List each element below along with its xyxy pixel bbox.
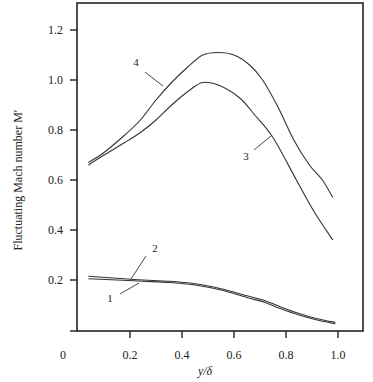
x-axis-title: y/δ — [197, 364, 213, 378]
curve-label-3: 3 — [243, 150, 249, 162]
curve-label-2: 2 — [152, 242, 158, 254]
y-tick-label: 1.0 — [48, 73, 63, 87]
y-tick-label: 0.2 — [48, 273, 63, 287]
y-tick-label: 0.6 — [48, 173, 63, 187]
y-tick-label: 1.2 — [48, 23, 63, 37]
curve-label-1: 1 — [107, 292, 113, 304]
leader-line-1 — [120, 283, 139, 294]
x-tick-label: 1.0 — [331, 348, 346, 362]
line-chart: 0.20.40.60.81.01.2 0.20.40.60.81.0 1234 … — [0, 0, 373, 382]
curve-3 — [88, 82, 332, 240]
x-tick-label: 0.8 — [279, 348, 294, 362]
y-tick-label: 0.8 — [48, 123, 63, 137]
leader-line-4 — [145, 72, 163, 86]
x-axis: 0.20.40.60.81.0 — [70, 331, 346, 362]
origin-label: 0 — [60, 348, 66, 362]
plot-area — [88, 53, 335, 324]
y-axis: 0.20.40.60.81.01.2 — [48, 23, 77, 287]
leader-line-2 — [131, 256, 146, 279]
curve-4 — [88, 53, 332, 198]
leader-line-3 — [254, 136, 271, 150]
x-tick-label: 0.6 — [227, 348, 242, 362]
x-tick-label: 0.2 — [123, 348, 138, 362]
y-axis-title: Fluctuating Mach number M′ — [11, 109, 25, 250]
curve-2 — [88, 276, 335, 322]
curve-label-4: 4 — [133, 56, 139, 68]
y-tick-label: 0.4 — [48, 223, 63, 237]
x-tick-label: 0.4 — [175, 348, 190, 362]
curve-labels: 1234 — [107, 56, 271, 304]
curve-1 — [88, 279, 335, 324]
